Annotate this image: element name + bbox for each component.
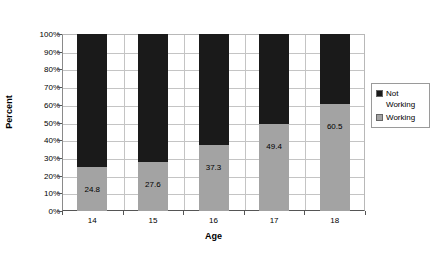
legend-swatch-icon bbox=[376, 114, 383, 121]
bar-stack: 27.6 bbox=[138, 34, 168, 211]
x-tick-label: 18 bbox=[315, 216, 355, 225]
x-tick-label: 17 bbox=[254, 216, 294, 225]
bar-stack: 37.3 bbox=[199, 34, 229, 211]
bar-segment-working: 37.3 bbox=[199, 145, 229, 211]
gridline-vertical bbox=[184, 35, 185, 210]
y-tick-mark bbox=[58, 87, 62, 88]
legend-item[interactable]: Working bbox=[376, 112, 425, 123]
x-tick-mark bbox=[123, 211, 124, 215]
x-tick-mark bbox=[365, 211, 366, 215]
chart-legend: Not WorkingWorking bbox=[371, 83, 430, 128]
legend-item-label: Not Working bbox=[386, 88, 425, 110]
bar-value-label: 60.5 bbox=[320, 122, 350, 131]
y-tick-label: 20% bbox=[26, 171, 60, 180]
y-tick-label: 80% bbox=[26, 65, 60, 74]
y-tick-label: 0% bbox=[26, 207, 60, 216]
y-tick-label: 10% bbox=[26, 189, 60, 198]
legend-item[interactable]: Not Working bbox=[376, 88, 425, 110]
bar-value-label: 27.6 bbox=[138, 180, 168, 189]
bar-stack: 49.4 bbox=[259, 34, 289, 211]
bar-stack: 60.5 bbox=[320, 34, 350, 211]
bar-segment-working: 49.4 bbox=[259, 124, 289, 211]
bar-segment-not-working bbox=[259, 34, 289, 124]
gridline-vertical bbox=[305, 35, 306, 210]
y-tick-mark bbox=[58, 193, 62, 194]
y-tick-mark bbox=[58, 123, 62, 124]
y-tick-label: 50% bbox=[26, 118, 60, 127]
y-tick-label: 100% bbox=[26, 30, 60, 39]
bar-segment-not-working bbox=[77, 34, 107, 167]
stacked-bar-chart: Percent 100%90%80%70%60%50%40%30%20%10%0… bbox=[0, 0, 438, 254]
bar-stack: 24.8 bbox=[77, 34, 107, 211]
bar-segment-working: 24.8 bbox=[77, 167, 107, 211]
gridline-vertical bbox=[245, 35, 246, 210]
y-tick-mark bbox=[58, 158, 62, 159]
y-tick-mark bbox=[58, 52, 62, 53]
legend-swatch-icon bbox=[376, 90, 383, 97]
x-tick-mark bbox=[244, 211, 245, 215]
x-tick-label: 16 bbox=[194, 216, 234, 225]
y-tick-mark bbox=[58, 176, 62, 177]
y-tick-mark bbox=[58, 69, 62, 70]
x-tick-mark bbox=[62, 211, 63, 215]
y-tick-label: 30% bbox=[26, 153, 60, 162]
y-tick-mark bbox=[58, 34, 62, 35]
x-tick-mark bbox=[304, 211, 305, 215]
bar-segment-not-working bbox=[199, 34, 229, 145]
bar-value-label: 49.4 bbox=[259, 142, 289, 151]
y-tick-label: 90% bbox=[26, 47, 60, 56]
x-tick-mark bbox=[183, 211, 184, 215]
bar-value-label: 24.8 bbox=[77, 185, 107, 194]
legend-item-label: Working bbox=[386, 112, 415, 123]
bar-segment-not-working bbox=[320, 34, 350, 104]
y-tick-mark bbox=[58, 140, 62, 141]
x-tick-label: 14 bbox=[72, 216, 112, 225]
gridline-vertical bbox=[124, 35, 125, 210]
y-tick-mark bbox=[58, 105, 62, 106]
y-tick-label: 40% bbox=[26, 136, 60, 145]
y-tick-label: 70% bbox=[26, 83, 60, 92]
bar-segment-working: 27.6 bbox=[138, 162, 168, 211]
bar-segment-working: 60.5 bbox=[320, 104, 350, 211]
bar-segment-not-working bbox=[138, 34, 168, 162]
y-axis-title: Percent bbox=[4, 82, 14, 142]
x-tick-label: 15 bbox=[133, 216, 173, 225]
bar-value-label: 37.3 bbox=[199, 163, 229, 172]
y-tick-label: 60% bbox=[26, 100, 60, 109]
x-axis-title: Age bbox=[62, 231, 365, 241]
